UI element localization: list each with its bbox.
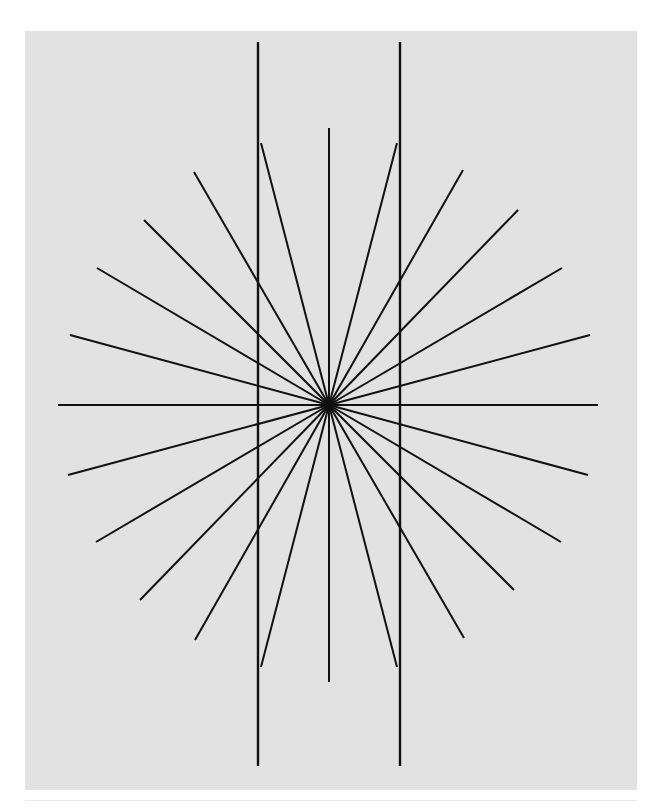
page-root — [0, 0, 663, 812]
radial-starburst-figure — [25, 31, 637, 790]
figure-panel — [25, 31, 637, 790]
bottom-divider — [25, 800, 637, 801]
